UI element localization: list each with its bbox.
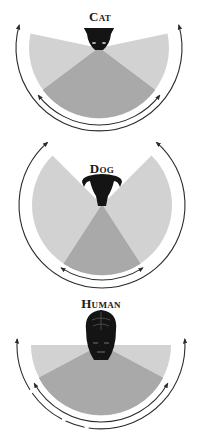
human-head-icon bbox=[86, 310, 116, 360]
vision-diagram: Cat Dog Human bbox=[0, 0, 199, 438]
label-cat: Cat bbox=[89, 10, 111, 23]
panel-cat bbox=[16, 25, 182, 131]
panel-human bbox=[17, 310, 185, 429]
label-dog: Dog bbox=[90, 162, 114, 175]
label-human: Human bbox=[81, 297, 121, 310]
diagram-canvas bbox=[0, 0, 199, 438]
